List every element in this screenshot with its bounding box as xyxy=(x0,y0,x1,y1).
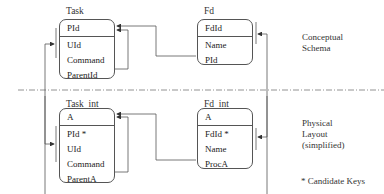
fd-int-attr: ProcA xyxy=(198,157,252,172)
task-int-parent-connector xyxy=(115,117,128,172)
task-attr: Command xyxy=(60,53,114,68)
fd-int-attr: Name xyxy=(198,142,252,157)
fd-key: FdId xyxy=(198,20,252,37)
fd-int-task-int-connector xyxy=(117,114,196,160)
fd-attr: PId xyxy=(198,53,252,68)
task-int-attr: Command xyxy=(60,157,114,172)
task-int-key: A xyxy=(60,109,114,126)
connector-layer xyxy=(0,0,384,194)
fd-fd-int-connector xyxy=(258,34,267,194)
task-title: Task xyxy=(66,6,84,16)
task-attr: UId xyxy=(60,38,114,53)
physical-layout-label: Physical Layout (simplified) xyxy=(302,118,345,151)
task-int-attr: PId * xyxy=(60,127,114,142)
task-entity: PId UId Command ParentId xyxy=(59,19,115,79)
conceptual-schema-label: Conceptual Schema xyxy=(302,32,343,54)
fd-int-key: A xyxy=(198,109,252,126)
task-int-attr: UId xyxy=(60,142,114,157)
task-int-entity: A PId * UId Command ParentA xyxy=(59,108,115,183)
fd-attr: Name xyxy=(198,38,252,53)
task-parent-connector xyxy=(115,30,128,69)
fd-entity: FdId Name PId xyxy=(197,19,253,65)
task-attr: ParentId xyxy=(60,68,114,83)
task-task-int-connector xyxy=(45,44,54,194)
task-key: PId xyxy=(60,20,114,37)
fd-task-connector xyxy=(117,26,196,56)
fd-int-entity: A FdId * Name ProcA xyxy=(197,108,253,169)
fd-int-attr: FdId * xyxy=(198,127,252,142)
candidate-keys-footnote: * Candidate Keys xyxy=(301,176,365,187)
task-int-attr: ParentA xyxy=(60,172,114,187)
fd-title: Fd xyxy=(204,6,214,16)
